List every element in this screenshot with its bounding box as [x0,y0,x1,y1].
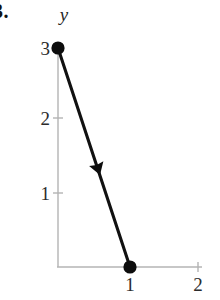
figure-root: 3. y 3 2 1 1 2 [0,0,220,300]
endpoint-marker-end [123,260,136,273]
directed-segment [58,48,130,267]
endpoint-marker-start [51,41,64,54]
plot-canvas [0,0,220,300]
